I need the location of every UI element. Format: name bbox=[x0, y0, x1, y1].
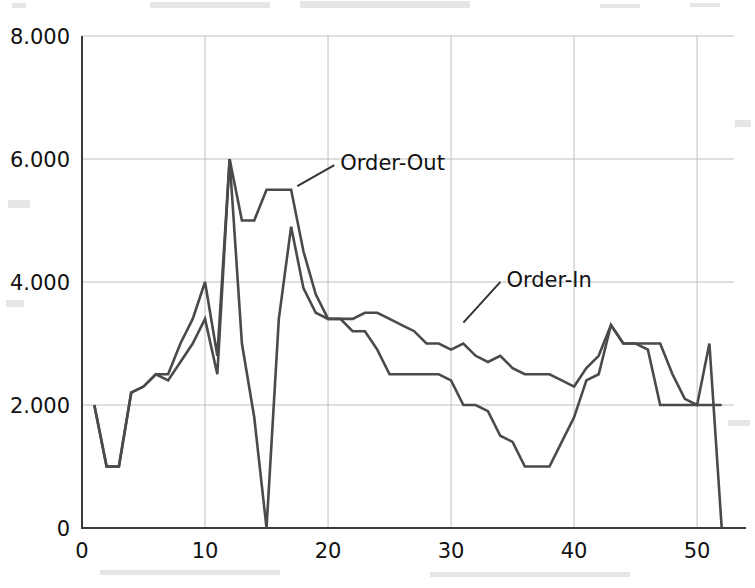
annotation-leader-line bbox=[463, 282, 500, 323]
series-annotations: Order-OutOrder-In bbox=[297, 151, 592, 323]
data-series-group bbox=[94, 159, 721, 528]
series-label-order-in: Order-In bbox=[506, 268, 591, 292]
gridlines bbox=[82, 36, 734, 528]
y-axis-ticks: 02.0004.0006.0008.000 bbox=[10, 25, 70, 541]
chart-container: 02.0004.0006.0008.000 01020304050 Order-… bbox=[0, 0, 755, 588]
x-axis-tick-label: 30 bbox=[438, 539, 465, 563]
y-axis-tick-label: 4.000 bbox=[10, 271, 70, 295]
line-chart: 02.0004.0006.0008.000 01020304050 Order-… bbox=[0, 0, 755, 588]
x-axis-tick-label: 40 bbox=[561, 539, 588, 563]
background-specks bbox=[6, 1, 751, 577]
series-label-order-out: Order-Out bbox=[340, 151, 445, 175]
y-axis-tick-label: 8.000 bbox=[10, 25, 70, 49]
y-axis-tick-label: 2.000 bbox=[10, 394, 70, 418]
chart-title bbox=[60, 0, 660, 4]
x-axis-tick-label: 50 bbox=[684, 539, 711, 563]
x-axis-tick-label: 20 bbox=[315, 539, 342, 563]
x-axis-tick-label: 10 bbox=[192, 539, 219, 563]
x-axis-tick-label: 0 bbox=[75, 539, 88, 563]
y-axis-tick-label: 0 bbox=[57, 517, 70, 541]
y-axis-tick-label: 6.000 bbox=[10, 148, 70, 172]
series-line-order-in bbox=[94, 159, 721, 528]
x-axis-ticks: 01020304050 bbox=[75, 539, 710, 563]
annotation-leader-line bbox=[297, 165, 334, 186]
